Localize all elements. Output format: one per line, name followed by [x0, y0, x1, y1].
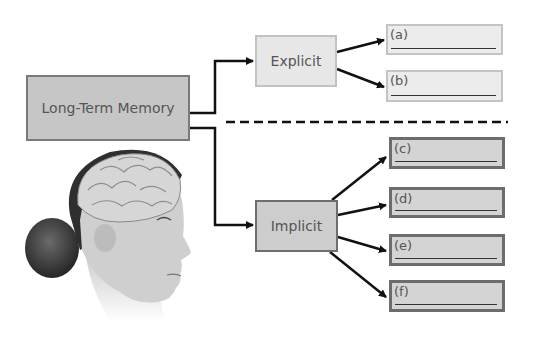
head-brain-illustration — [25, 150, 191, 322]
answer-label-a: (a) — [390, 27, 408, 42]
answer-box-d[interactable]: (d) — [389, 187, 505, 218]
answer-blank-line — [395, 258, 497, 260]
answer-blank-line — [391, 48, 496, 50]
answer-blank-line — [395, 304, 497, 306]
implicit-label: Implicit — [271, 218, 323, 234]
long-term-memory-box: Long-Term Memory — [26, 75, 190, 141]
answer-box-e[interactable]: (e) — [389, 234, 505, 266]
answer-blank-line — [395, 210, 497, 212]
answer-blank-line — [395, 161, 497, 163]
answer-label-f: (f) — [394, 284, 409, 299]
answer-label-b: (b) — [390, 73, 408, 88]
implicit-box: Implicit — [255, 200, 338, 252]
answer-label-c: (c) — [394, 141, 411, 156]
long-term-memory-label: Long-Term Memory — [42, 100, 175, 116]
explicit-box: Explicit — [255, 35, 337, 87]
answer-box-b[interactable]: (b) — [386, 70, 503, 102]
answer-box-a[interactable]: (a) — [386, 24, 503, 55]
explicit-label: Explicit — [271, 53, 322, 69]
answer-box-c[interactable]: (c) — [389, 137, 505, 169]
answer-label-d: (d) — [394, 191, 412, 206]
answer-label-e: (e) — [394, 238, 412, 253]
answer-box-f[interactable]: (f) — [389, 280, 505, 312]
answer-blank-line — [391, 95, 496, 97]
